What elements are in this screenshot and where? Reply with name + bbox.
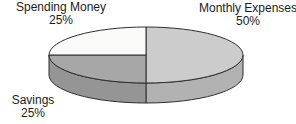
label-monthly-expenses: Monthly Expenses 50% (188, 2, 296, 28)
slice-percent: 25% (0, 107, 66, 120)
slice-percent: 25% (1, 14, 121, 27)
label-spending-money: Spending Money 25% (1, 1, 121, 27)
pie-chart-figure: Spending Money 25% Monthly Expenses 50% … (0, 0, 296, 124)
pie-slice-spending-money (49, 27, 146, 55)
label-savings: Savings 25% (0, 94, 66, 120)
slice-percent: 50% (188, 15, 296, 28)
